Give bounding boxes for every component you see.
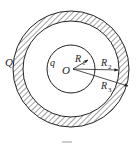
outer-shell-inner-boundary [23, 21, 119, 117]
svg-text:R: R [100, 57, 107, 68]
svg-text:R: R [74, 53, 81, 64]
center-label: O [62, 64, 70, 76]
concentric-spheres-diagram: O q Q R 1 R 2 R 3 [0, 0, 136, 145]
svg-text:1: 1 [82, 59, 86, 67]
caption-mark [62, 141, 72, 143]
svg-text:3: 3 [108, 86, 112, 94]
svg-text:R: R [100, 80, 107, 91]
outer-charge-label: Q [5, 56, 13, 68]
inner-charge-label: q [50, 57, 55, 68]
svg-text:2: 2 [108, 63, 112, 71]
